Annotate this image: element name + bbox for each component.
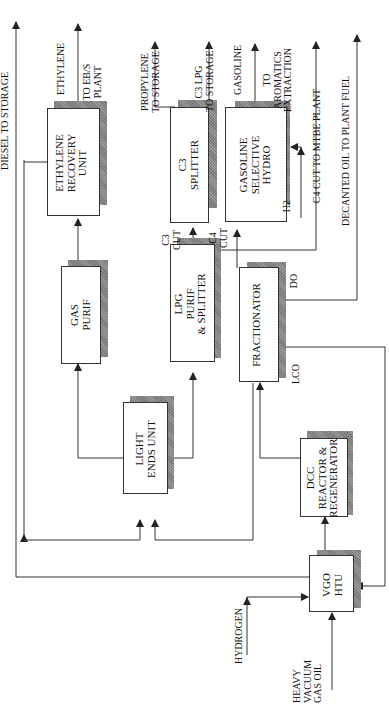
fractionator-label: FRACTIONATOR (251, 270, 265, 380)
lpg-purif-box: LPGPURIF& SPLITTER (170, 244, 215, 362)
vgo-htu-label: VGOHTU (321, 555, 345, 616)
c3-splitter-box: C3SPLITTER (170, 107, 209, 223)
ethylene-label: ETHYLENE (56, 45, 68, 95)
do-label: DO (289, 271, 301, 291)
c3-cut-label: C3 CUT (161, 225, 185, 255)
dcc-reactor-label: DCCREACTOR &REGENERATOR (305, 437, 343, 519)
c3-splitter-label: C3SPLITTER (177, 107, 201, 223)
c4-mtbe-label: C4 CUT TO MTBE PLANT (312, 86, 324, 206)
gas-purif-label: GASPURIF (69, 266, 93, 364)
light-ends-label: LIGHTENDS UNIT (134, 405, 158, 493)
c3-lpg-label: C3 LPG TO STORAGE (194, 52, 218, 112)
vgo-htu-box: VGOHTU (309, 555, 354, 612)
dcc-reactor-box: DCCREACTOR &REGENERATOR (300, 438, 348, 517)
to-aromatics-label: TO AROMATICS EXTRACTION (262, 45, 298, 115)
light-ends-box: LIGHTENDS UNIT (123, 402, 168, 494)
h2-label: H2 (282, 198, 294, 214)
ethylene-recovery-label: ETHYLENERECOVERYUNIT (54, 109, 92, 217)
fractionator-box: FRACTIONATOR (239, 267, 279, 382)
lpg-purif-label: LPGPURIF& SPLITTER (173, 245, 211, 363)
to-ebs-label: TO EB/S PLANT (82, 58, 106, 106)
hvgo-label: HEAVY VACUUM GAS OIL (292, 633, 328, 703)
dcc-to-fractionator-line (260, 383, 300, 458)
c4-cut-label: C4 CUT (208, 223, 232, 253)
lightends-to-gaspurif-line (78, 364, 126, 458)
gasoline-label: GASOLINE (233, 45, 245, 95)
decanted-oil-label: DECANTED OIL TO PLANT FUEL (341, 86, 353, 226)
gas-purif-box: GASPURIF (61, 266, 101, 364)
gasoline-hydro-box: GASOLINESELECTIVEHYDRO (225, 107, 287, 222)
lco-label: LCO (291, 362, 303, 386)
gasoline-hydro-label: GASOLINESELECTIVEHYDRO (238, 108, 276, 223)
hydrogen-label: HYDROGEN (234, 601, 246, 671)
propylene-label: PROPYLENE TO STORAGE (140, 51, 164, 113)
ethylene-recovery-box: ETHYLENERECOVERYUNIT (47, 108, 100, 216)
diesel-label: DIESEL TO STORAGE (0, 65, 12, 177)
